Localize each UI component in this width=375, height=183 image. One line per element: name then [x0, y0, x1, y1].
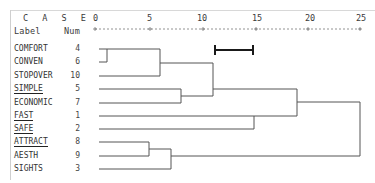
dendrogram-panel: C A S E Label Num 0 5 10 15 20 25: [0, 0, 375, 183]
row-num-simple: 5: [62, 84, 80, 93]
row-num-fast: 1: [62, 111, 80, 120]
row-label-economic: ECONOMIC: [14, 98, 53, 107]
row-num-stopover: 10: [62, 71, 80, 80]
row-label-safe: SAFE: [14, 124, 33, 134]
row-label-simple: SIMPLE: [14, 84, 43, 94]
row-label-sights: SIGHTS: [14, 164, 43, 173]
row-num-aesth: 9: [62, 151, 80, 160]
row-num-conven: 6: [62, 57, 80, 66]
distance-axis: [93, 27, 362, 31]
row-num-economic: 7: [62, 98, 80, 107]
row-num-attract: 8: [62, 137, 80, 146]
row-num-safe: 2: [62, 124, 80, 133]
row-label-conven: CONVEN: [14, 57, 43, 66]
row-label-comfort: COMFORT: [14, 44, 48, 53]
scale-bar: [215, 45, 253, 55]
row-num-sights: 3: [62, 164, 80, 173]
row-label-stopover: STOPOVER: [14, 71, 53, 80]
row-label-attract: ATTRACT: [14, 137, 48, 147]
row-num-comfort: 4: [62, 44, 80, 53]
row-label-aesth: AESTH: [14, 151, 38, 160]
dendrogram-tree: [0, 0, 375, 183]
row-label-fast: FAST: [14, 111, 33, 121]
